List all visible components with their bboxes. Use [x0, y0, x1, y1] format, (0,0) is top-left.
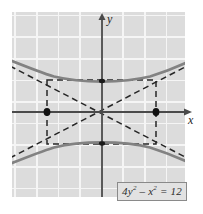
equation-operator: – — [137, 185, 149, 197]
y-axis-label: y — [107, 13, 112, 25]
focus-right-point — [153, 108, 160, 116]
focus-left-point — [44, 108, 51, 116]
vertex-bottom-point — [99, 141, 105, 145]
equation-right-side: = 12 — [157, 185, 182, 197]
vertex-top-point — [99, 79, 105, 83]
plot-background — [12, 12, 185, 197]
x-axis-label: x — [188, 114, 193, 126]
equation-label-box: 4y2 – x2 = 12 — [117, 182, 187, 201]
equation-text: 4y2 – x2 = 12 — [122, 185, 182, 197]
hyperbola-figure: y x 4y2 – x2 = 12 — [0, 0, 203, 214]
